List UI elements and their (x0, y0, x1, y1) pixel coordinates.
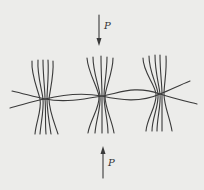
weave-diagram (0, 0, 204, 190)
force-label-bottom: P (108, 157, 115, 168)
fiber-bundle-right (143, 55, 172, 131)
force-label-top: P (104, 20, 111, 31)
diagram-canvas: P P (0, 0, 204, 190)
force-arrow-bottom (101, 146, 106, 178)
force-arrow-top (97, 15, 102, 46)
